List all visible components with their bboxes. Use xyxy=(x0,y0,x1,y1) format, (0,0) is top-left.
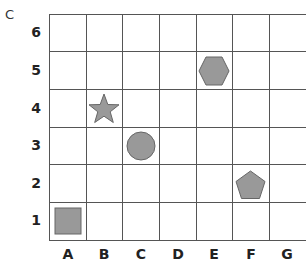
col-label-c: C xyxy=(123,246,159,262)
pentagon-shape xyxy=(235,170,266,200)
grid-line xyxy=(49,202,306,203)
row-label-5: 5 xyxy=(26,62,46,78)
row-label-3: 3 xyxy=(26,137,46,153)
grid-line xyxy=(49,164,306,165)
row-label-1: 1 xyxy=(26,212,46,228)
col-label-d: D xyxy=(160,246,196,262)
coordinate-grid xyxy=(49,14,306,241)
grid-line xyxy=(49,240,306,241)
col-label-e: E xyxy=(196,246,232,262)
grid-line xyxy=(49,127,306,128)
col-label-b: B xyxy=(86,246,122,262)
grid-line xyxy=(49,89,306,90)
circle-shape xyxy=(126,131,156,161)
row-label-4: 4 xyxy=(26,100,46,116)
row-label-2: 2 xyxy=(26,175,46,191)
grid-line xyxy=(49,14,306,15)
col-label-f: F xyxy=(233,246,269,262)
grid-line xyxy=(49,51,306,52)
col-label-g: G xyxy=(269,246,305,262)
square-shape xyxy=(54,207,82,235)
col-label-a: A xyxy=(50,246,86,262)
hexagon-shape xyxy=(198,56,230,86)
row-label-6: 6 xyxy=(26,24,46,40)
corner-label: C xyxy=(5,7,14,22)
star-shape xyxy=(88,93,120,125)
